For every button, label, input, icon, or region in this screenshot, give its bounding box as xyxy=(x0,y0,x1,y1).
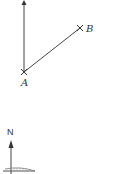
north-arrowhead-icon xyxy=(9,140,14,148)
point-b-cross-icon xyxy=(77,25,83,31)
north-arrowhead-icon xyxy=(22,0,27,5)
figure-bearing-ab: A B xyxy=(20,0,93,88)
segment-ab xyxy=(24,28,80,72)
diagram-canvas: A B N xyxy=(0,0,116,174)
figure-north-arrow: N xyxy=(3,127,35,174)
point-b-label: B xyxy=(85,23,93,34)
north-label: N xyxy=(7,127,14,137)
point-a-label: A xyxy=(20,77,28,88)
